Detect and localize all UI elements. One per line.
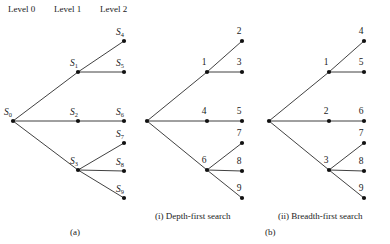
- node-label-n8: 8: [359, 156, 364, 166]
- node-label-s2: S2: [70, 107, 78, 118]
- tree-node-s1: [76, 70, 80, 74]
- node-label-s9: S9: [116, 184, 124, 195]
- node-label-n5: 5: [237, 106, 242, 116]
- caption-breadth-first-search: (ii) Breadth-first search: [278, 211, 363, 221]
- tree-a-edges-group: [13, 41, 124, 198]
- node-label-n7: 7: [359, 128, 364, 138]
- level-headers-group: Level 0Level 1Level 2: [8, 4, 127, 14]
- node-label-n8: 8: [237, 156, 242, 166]
- tree-node-s4: [122, 39, 126, 43]
- tree-edge: [13, 121, 78, 170]
- tree-node-n3: [240, 70, 244, 74]
- node-label-n2: 2: [324, 106, 329, 116]
- tree-node-s5: [122, 70, 126, 74]
- node-label-n1: 1: [202, 57, 207, 67]
- tree-node-n1: [327, 70, 331, 74]
- tree-node-n8: [362, 169, 366, 173]
- tree-node-n8: [240, 169, 244, 173]
- tree-a-nodes-group: [11, 39, 126, 200]
- node-label-s3: S3: [70, 156, 78, 167]
- tree-bfs-nodes-group: [267, 39, 366, 200]
- node-label-n6: 6: [202, 155, 207, 165]
- tree-node-s8: [122, 169, 126, 173]
- tree-node-s7: [122, 141, 126, 145]
- tree-edge: [13, 72, 78, 121]
- figure-container: Level 0Level 1Level 2 S0S1S2S3S4S5S6S7S8…: [0, 0, 390, 244]
- node-label-n4: 4: [359, 26, 364, 36]
- tree-dfs-nodes-group: [145, 39, 244, 200]
- node-label-n7: 7: [237, 128, 242, 138]
- tree-node-n7: [240, 141, 244, 145]
- tree-node-n5: [240, 119, 244, 123]
- tree-node-s0: [11, 119, 15, 123]
- node-label-s1: S1: [70, 58, 78, 69]
- tree-node-n5: [362, 70, 366, 74]
- tree-edge: [207, 170, 242, 171]
- tree-node-n7: [362, 141, 366, 145]
- node-label-n1: 1: [324, 57, 329, 67]
- tree-node-n9: [362, 196, 366, 200]
- tree-node-n6: [205, 168, 209, 172]
- caption-panel-a: (a): [70, 227, 80, 237]
- tree-node-s6: [122, 119, 126, 123]
- level-header-2: Level 2: [100, 4, 127, 14]
- node-label-n5: 5: [359, 57, 364, 67]
- node-label-n6: 6: [359, 106, 364, 116]
- tree-node-r: [267, 119, 271, 123]
- tree-node-n2: [240, 39, 244, 43]
- tree-edge: [269, 72, 329, 121]
- tree-node-n9: [240, 196, 244, 200]
- tree-node-n2: [327, 119, 331, 123]
- tree-node-n4: [205, 119, 209, 123]
- tree-node-s2: [76, 119, 80, 123]
- tree-node-r: [145, 119, 149, 123]
- tree-dfs-labels-group: 146235789: [202, 26, 242, 193]
- node-label-n9: 9: [237, 183, 242, 193]
- tree-edge: [269, 121, 329, 170]
- node-label-s5: S5: [116, 58, 124, 69]
- node-label-s7: S7: [116, 129, 125, 140]
- captions-group: (i) Depth-first search(ii) Breadth-first…: [70, 211, 363, 237]
- tree-dfs-edges-group: [147, 41, 242, 198]
- tree-node-s9: [122, 196, 126, 200]
- node-label-n3: 3: [237, 57, 242, 67]
- level-header-0: Level 0: [8, 4, 36, 14]
- tree-bfs-labels-group: 123456789: [324, 26, 364, 193]
- node-label-n9: 9: [359, 183, 364, 193]
- node-label-s6: S6: [116, 107, 124, 118]
- node-label-s8: S8: [116, 157, 124, 168]
- caption-depth-first-search: (i) Depth-first search: [155, 211, 231, 221]
- tree-edge: [147, 72, 207, 121]
- tree-node-s3: [76, 168, 80, 172]
- node-label-n2: 2: [237, 26, 242, 36]
- level-header-1: Level 1: [54, 4, 81, 14]
- node-label-s0: S0: [4, 107, 12, 118]
- caption-panel-b: (b): [265, 227, 276, 237]
- tree-edge: [78, 170, 124, 171]
- tree-node-n1: [205, 70, 209, 74]
- node-label-s4: S4: [116, 27, 125, 38]
- tree-node-n6: [362, 119, 366, 123]
- node-label-n3: 3: [324, 155, 329, 165]
- tree-node-n3: [327, 168, 331, 172]
- tree-edge: [329, 170, 364, 171]
- search-trees-diagram: Level 0Level 1Level 2 S0S1S2S3S4S5S6S7S8…: [0, 0, 390, 244]
- node-label-n4: 4: [202, 106, 207, 116]
- tree-node-n4: [362, 39, 366, 43]
- tree-edge: [147, 121, 207, 170]
- tree-bfs-edges-group: [269, 41, 364, 198]
